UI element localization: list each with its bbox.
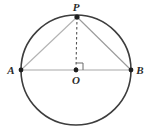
segment-ap-chord xyxy=(21,17,77,70)
point-o-dot xyxy=(74,68,79,73)
point-b-label: B xyxy=(135,64,143,76)
geometry-canvas: A B P O xyxy=(0,0,153,135)
point-b-dot xyxy=(129,68,134,73)
point-a-label: A xyxy=(6,64,14,76)
geometry-figure: A B P O xyxy=(0,0,153,135)
segment-pb-chord xyxy=(77,17,131,70)
segment-po-dashed-radius xyxy=(76,17,77,70)
point-o-label: O xyxy=(72,74,80,86)
point-p-dot xyxy=(74,14,79,19)
point-a-dot xyxy=(19,68,24,73)
point-p-label: P xyxy=(73,1,80,13)
